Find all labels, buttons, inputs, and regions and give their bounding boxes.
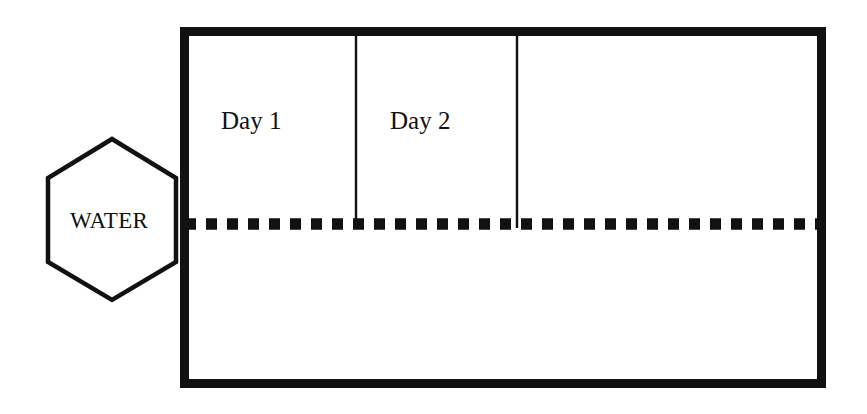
tank-rectangle: [185, 32, 822, 384]
day-1-label: Day 1: [221, 108, 281, 133]
day-2-label: Day 2: [390, 108, 450, 133]
water-source-label: WATER: [70, 209, 148, 232]
diagram-canvas: WATER Day 1 Day 2: [0, 0, 867, 414]
diagram-svg: [0, 0, 867, 414]
